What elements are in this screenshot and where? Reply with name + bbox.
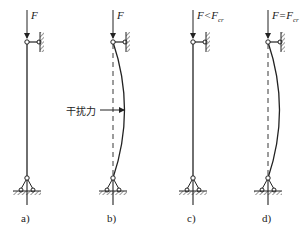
panel-label-d: d) (262, 212, 271, 224)
pin-support-c (179, 176, 207, 205)
panel-b (99, 10, 130, 205)
panel-label-c: c) (187, 212, 196, 224)
panel-a (13, 10, 44, 205)
disturbance-force-label: 干扰力 (66, 103, 96, 118)
pin-support-b (99, 176, 127, 205)
diagram-canvas (0, 0, 302, 238)
panel-label-a: a) (21, 212, 30, 224)
deflected-column-d (268, 42, 280, 178)
pin-support-d (254, 176, 282, 205)
force-label-b: F (117, 9, 124, 21)
wall-b (126, 32, 130, 52)
panel-d (254, 10, 285, 205)
panel-label-b: b) (107, 212, 116, 224)
wall-d (281, 32, 285, 52)
panel-c (179, 10, 210, 205)
force-label-a: F (31, 9, 38, 21)
wall-a (40, 32, 44, 52)
wall-c (206, 32, 210, 52)
pin-support-a (13, 176, 41, 205)
force-label-d: F=Fcr (272, 9, 299, 24)
force-label-c: F<Fcr (197, 9, 224, 24)
